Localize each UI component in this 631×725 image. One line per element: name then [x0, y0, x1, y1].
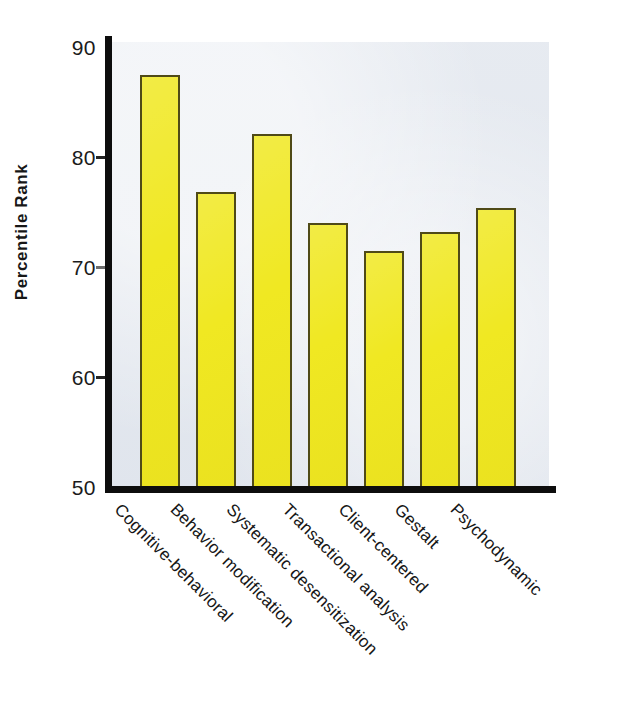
bar-client-centered [364, 251, 404, 488]
bar-gestalt [420, 232, 460, 488]
y-axis-title: Percentile Rank [12, 142, 32, 322]
y-tick-label-50: 50 [52, 476, 96, 500]
x-label-psychodynamic: Psychodynamic [446, 500, 546, 600]
bar-psychodynamic [476, 208, 516, 488]
bar-systematic-desensitization [252, 134, 292, 488]
bar-cognitive-behavioral [140, 75, 180, 488]
y-tick-label-80: 80 [52, 146, 96, 170]
y-tick-label-90: 90 [52, 36, 96, 60]
bar-behavior-modification [196, 192, 236, 488]
bar-chart-figure: Percentile Rank 90 80 70 60 50 Cognitive… [0, 0, 631, 725]
x-label-gestalt: Gestalt [390, 500, 443, 553]
y-axis-line [105, 36, 112, 493]
bar-transactional-analysis [308, 223, 348, 488]
y-tick-label-60: 60 [52, 366, 96, 390]
y-tick-label-70: 70 [52, 256, 96, 280]
x-axis-line [105, 486, 556, 493]
